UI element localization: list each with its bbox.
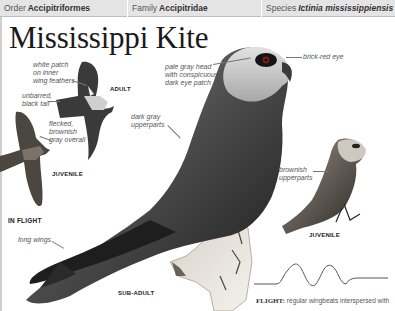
label-line: gray overall <box>49 136 85 144</box>
label-line: black tail <box>22 100 52 108</box>
leader-eye <box>286 57 302 58</box>
flight-text: regular wingbeats interspersed with <box>287 297 389 304</box>
label-line: flecked, <box>49 120 85 128</box>
label-line: upperparts <box>279 174 312 182</box>
juvenile-perched-bird <box>282 138 366 234</box>
tag-in-flight: IN FLIGHT <box>8 217 42 224</box>
leader-brownish <box>313 171 329 172</box>
label-line: brownish <box>279 166 312 174</box>
tag-sub-adult: SUB-ADULT <box>118 290 154 296</box>
flight-label: FLIGHT: <box>256 297 285 305</box>
label-brick-red-eye: brick-red eye <box>303 53 343 61</box>
label-line: dark gray <box>131 113 164 121</box>
flight-pattern-wave <box>254 264 388 286</box>
bird-illustrations <box>0 0 395 311</box>
label-line: brownish <box>49 128 85 136</box>
label-line: unbarred, <box>22 92 52 100</box>
label-line: on inner <box>33 69 75 77</box>
flight-description: FLIGHT: regular wingbeats interspersed w… <box>256 297 389 305</box>
label-line: upperparts <box>131 121 164 129</box>
label-line: pale gray head <box>165 63 218 71</box>
label-unbarred-tail: unbarred, black tail <box>22 92 52 108</box>
label-line: wing feathers <box>33 77 75 85</box>
label-line: white patch <box>33 61 75 69</box>
label-flecked: flecked, brownish gray overall <box>49 120 85 144</box>
label-white-patch: white patch on inner wing feathers <box>33 61 75 85</box>
tag-juvenile-flight: JUVENILE <box>52 171 83 177</box>
label-dark-upperparts: dark gray upperparts <box>131 113 164 129</box>
tag-juvenile-perched: JUVENILE <box>309 232 340 238</box>
tag-adult: ADULT <box>110 86 131 92</box>
juvenile-flight-bird <box>0 112 50 206</box>
sub-adult-perched-bird <box>26 47 292 311</box>
label-brownish-upperparts: brownish upperparts <box>279 166 312 182</box>
label-pale-head: pale gray head with conspicuous dark eye… <box>165 63 218 87</box>
label-long-wings: long wings <box>18 236 51 244</box>
label-line: dark eye patch <box>165 79 218 87</box>
label-line: with conspicuous <box>165 71 218 79</box>
